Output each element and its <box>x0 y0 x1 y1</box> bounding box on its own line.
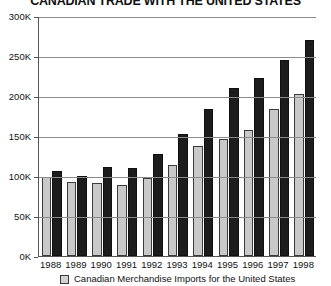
gridline <box>39 97 316 98</box>
plot-area <box>38 17 316 257</box>
bar-exports <box>77 176 87 256</box>
bar-imports <box>92 183 102 256</box>
gridline <box>39 57 316 58</box>
gridline <box>39 137 316 138</box>
y-axis-tick-label: 50K <box>14 212 31 222</box>
x-axis-tick-label: 1992 <box>139 259 164 270</box>
y-axis-tick-label: 100K <box>9 172 31 182</box>
gridline <box>39 177 316 178</box>
y-axis-tick-label: 200K <box>9 92 31 102</box>
y-axis: 300K250K200K150K100K50K0K <box>0 0 38 264</box>
x-axis-tick-label: 1988 <box>38 259 63 270</box>
bar-exports <box>128 168 138 256</box>
x-axis-tick-label: 1991 <box>114 259 139 270</box>
y-axis-tick-label: 150K <box>9 132 31 142</box>
bar-exports <box>153 154 163 256</box>
x-axis-tick-label: 1994 <box>190 259 215 270</box>
bar-exports <box>229 88 239 256</box>
bar-chart: CANADIAN TRADE WITH THE UNITED STATES 30… <box>0 0 331 286</box>
bar-imports <box>193 146 203 256</box>
bar-exports <box>52 171 62 256</box>
y-axis-tick-label: 250K <box>9 52 31 62</box>
bar-imports <box>67 182 77 256</box>
x-axis-tick-label: 1990 <box>89 259 114 270</box>
x-axis-tick-label: 1998 <box>291 259 316 270</box>
bar-imports <box>244 130 254 256</box>
bar-exports <box>103 167 113 256</box>
chart-legend: Canadian Merchandise Imports for the Uni… <box>60 274 295 284</box>
y-axis-tick-mark <box>34 257 38 258</box>
chart-title: CANADIAN TRADE WITH THE UNITED STATES <box>0 0 331 8</box>
bar-exports <box>280 60 290 256</box>
bar-imports <box>294 94 304 256</box>
x-axis-tick-label: 1989 <box>63 259 88 270</box>
legend-swatch-imports <box>60 275 69 284</box>
x-axis-tick-label: 1993 <box>164 259 189 270</box>
bar-imports <box>168 165 178 256</box>
gridline <box>39 217 316 218</box>
bar-imports <box>117 185 127 256</box>
x-axis-tick-label: 1995 <box>215 259 240 270</box>
y-axis-tick-label: 300K <box>9 12 31 22</box>
bar-exports <box>254 78 264 256</box>
legend-label-imports: Canadian Merchandise Imports for the Uni… <box>74 274 295 284</box>
x-axis-tick-label: 1996 <box>240 259 265 270</box>
bar-exports <box>178 134 188 256</box>
bar-exports <box>204 109 214 256</box>
x-axis: 1988198919901991199219931994199519961997… <box>38 259 316 273</box>
y-axis-tick-label: 0K <box>19 252 31 262</box>
x-axis-tick-label: 1997 <box>265 259 290 270</box>
bar-imports <box>269 109 279 256</box>
bar-exports <box>305 40 315 256</box>
bar-imports <box>219 139 229 256</box>
